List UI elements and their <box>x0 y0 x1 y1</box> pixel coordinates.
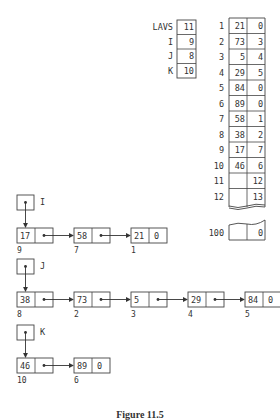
node-info: 73 <box>77 295 87 305</box>
head-label: J <box>40 261 45 271</box>
null-link: 0 <box>154 231 159 241</box>
row-index: 8 <box>219 130 224 140</box>
pointer-variables: LAVS I J K 11 9 8 10 <box>153 20 196 78</box>
list-node: 294 <box>188 292 244 319</box>
row-index: 7 <box>219 114 224 124</box>
node-address: 6 <box>74 376 79 385</box>
node-info: 21 <box>134 231 144 241</box>
node-info: 38 <box>20 295 30 305</box>
row-index: 9 <box>219 145 224 155</box>
row-index: 1 <box>219 21 224 31</box>
list-j: J388732532948450 <box>17 259 280 319</box>
node-info: 58 <box>77 231 87 241</box>
row-link: 5 <box>258 68 263 78</box>
row-index: 6 <box>219 99 224 109</box>
row-link: 0 <box>258 21 263 31</box>
list-node: 2110 <box>131 228 167 255</box>
pointer-name-lavs: LAVS <box>153 22 173 32</box>
row-info: 5 <box>240 52 245 62</box>
row-index: 100 <box>209 228 224 238</box>
node-address: 10 <box>17 376 27 385</box>
row-info: 84 <box>235 83 245 93</box>
row-index: 5 <box>219 83 224 93</box>
node-info: 89 <box>77 361 87 371</box>
row-info: 29 <box>235 68 245 78</box>
row-link: 12 <box>253 176 263 186</box>
node-address: 7 <box>74 246 79 255</box>
row-info: 89 <box>235 99 245 109</box>
null-link: 0 <box>97 361 102 371</box>
pointer-name-k: K <box>168 66 174 76</box>
memory-table: 1210273335442955840689075818382917710466… <box>209 18 265 240</box>
pointer-value-lavs: 11 <box>184 22 194 32</box>
list-i: I1795872110 <box>17 195 167 255</box>
row-index: 4 <box>219 68 224 78</box>
row-info: 73 <box>235 37 245 47</box>
row-link: 0 <box>258 228 263 238</box>
node-address: 5 <box>245 310 250 319</box>
row-info: 17 <box>235 145 245 155</box>
row-link: 0 <box>258 99 263 109</box>
row-index: 10 <box>214 161 224 171</box>
row-info: 21 <box>235 21 245 31</box>
node-info: 46 <box>20 361 30 371</box>
node-address: 3 <box>131 310 136 319</box>
row-link: 13 <box>253 192 263 202</box>
row-link: 1 <box>258 114 263 124</box>
null-link: 0 <box>268 295 273 305</box>
row-info: 38 <box>235 130 245 140</box>
row-info: 58 <box>235 114 245 124</box>
head-label: K <box>40 327 46 337</box>
list-k: K46108960 <box>17 325 110 385</box>
node-address: 9 <box>17 246 22 255</box>
head-label: I <box>40 197 45 207</box>
figure-caption: Figure 11.5 <box>0 409 280 420</box>
row-link: 4 <box>258 52 263 62</box>
node-address: 4 <box>188 310 193 319</box>
row-info: 46 <box>235 161 245 171</box>
list-node: 179 <box>17 228 73 255</box>
node-info: 17 <box>20 231 30 241</box>
list-node: 4610 <box>17 358 73 385</box>
pointer-value-k: 10 <box>184 66 194 76</box>
node-address: 2 <box>74 310 79 319</box>
list-node: 8450 <box>245 292 280 319</box>
node-address: 1 <box>131 246 136 255</box>
row-link: 2 <box>258 130 263 140</box>
row-index: 2 <box>219 37 224 47</box>
pointer-value-i: 9 <box>189 37 194 47</box>
row-link: 6 <box>258 161 263 171</box>
node-info: 84 <box>248 295 258 305</box>
row-link: 0 <box>258 83 263 93</box>
node-address: 8 <box>17 310 22 319</box>
list-node: 388 <box>17 292 73 319</box>
list-node: 53 <box>131 292 187 319</box>
list-node: 732 <box>74 292 130 319</box>
row-link: 7 <box>258 145 263 155</box>
pointer-name-j: J <box>168 51 173 61</box>
row-index: 12 <box>214 192 224 202</box>
row-index: 11 <box>214 176 224 186</box>
pointer-value-j: 8 <box>189 51 194 61</box>
pointer-name-i: I <box>168 37 173 47</box>
list-node: 8960 <box>74 358 110 385</box>
row-link: 3 <box>258 37 263 47</box>
node-info: 5 <box>134 295 139 305</box>
list-node: 587 <box>74 228 130 255</box>
node-info: 29 <box>191 295 201 305</box>
row-index: 3 <box>219 52 224 62</box>
